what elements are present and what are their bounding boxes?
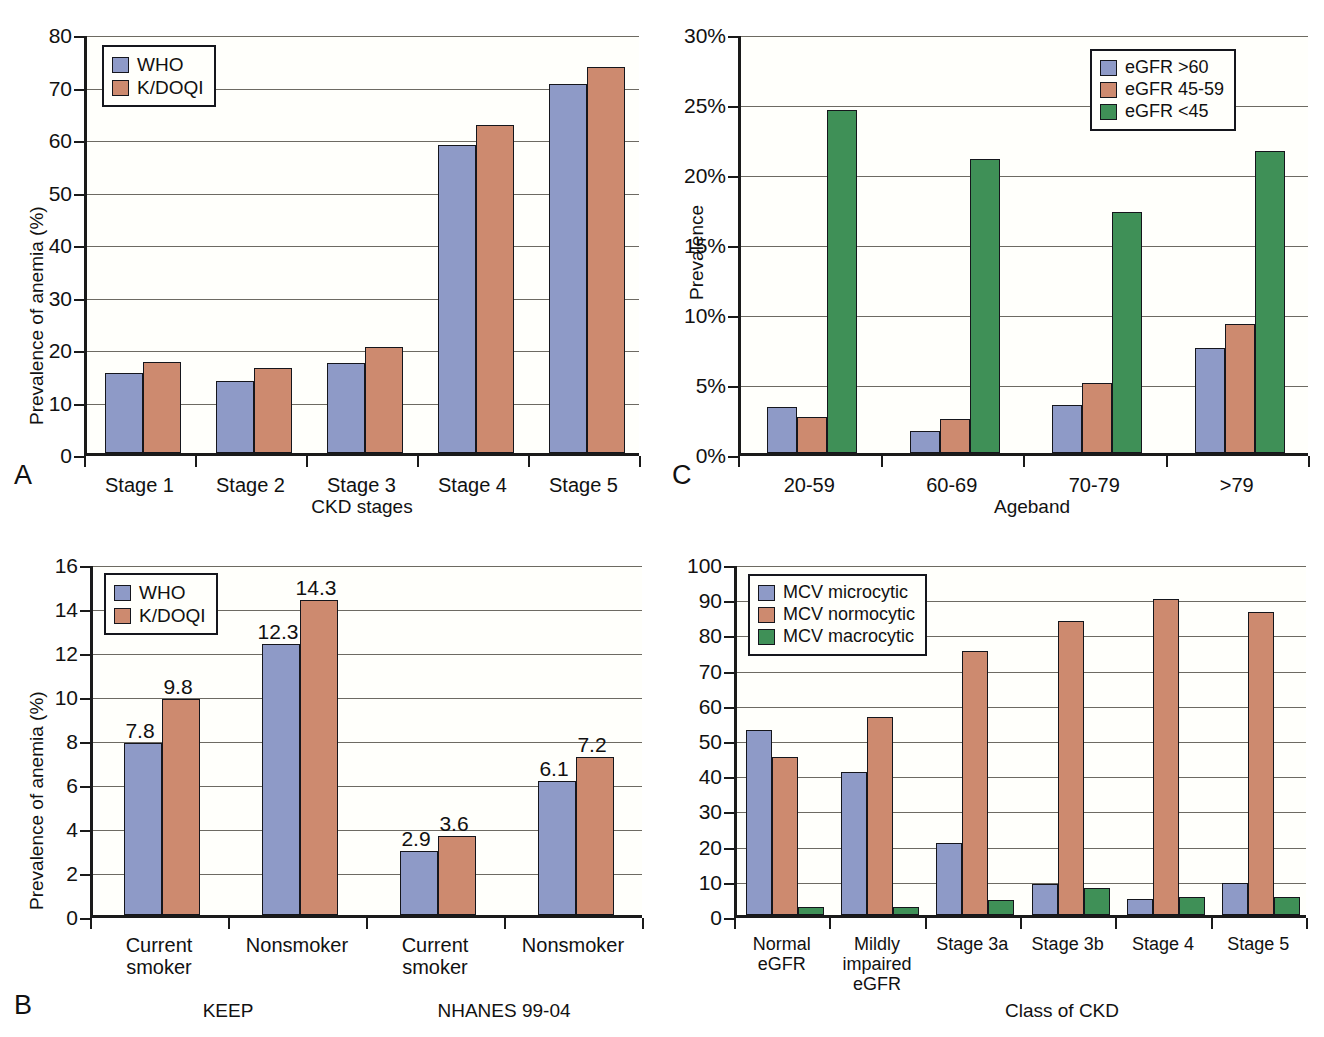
bar <box>162 699 200 915</box>
legend-item-egfr-45-59[interactable]: eGFR 45-59 <box>1100 79 1224 101</box>
y-tick-label: 10 <box>49 392 72 416</box>
gridline <box>737 707 1306 708</box>
gridline <box>737 883 1306 884</box>
legend-item-mcv-normocytic[interactable]: MCV normocytic <box>758 604 915 626</box>
y-tick-mark <box>74 456 84 458</box>
y-tick-mark <box>724 883 734 885</box>
y-tick-label: 40 <box>699 765 722 789</box>
bar-value-label: 9.8 <box>163 675 192 699</box>
bar <box>1225 324 1255 453</box>
x-tick-mark <box>642 918 644 929</box>
y-tick-label: 70 <box>49 77 72 101</box>
y-tick-mark <box>728 246 738 248</box>
y-tick-mark <box>74 36 84 38</box>
x-tick-mark <box>1023 456 1025 467</box>
y-tick-label: 20 <box>49 339 72 363</box>
bar <box>1112 212 1142 453</box>
bar <box>1084 888 1110 915</box>
legend-label: MCV normocytic <box>783 604 915 626</box>
y-tick-mark <box>724 636 734 638</box>
y-tick-mark <box>724 601 734 603</box>
gridline <box>741 176 1308 177</box>
y-tick-mark <box>724 742 734 744</box>
legend-item-mcv-macrocytic[interactable]: MCV macrocytic <box>758 626 915 648</box>
y-tick-label: 30 <box>699 800 722 824</box>
gridline <box>737 848 1306 849</box>
legend-b[interactable]: WHO K/DOQI <box>104 573 218 635</box>
legend-item-kdoqi[interactable]: K/DOQI <box>112 76 204 99</box>
legend-item-mcv-microcytic[interactable]: MCV microcytic <box>758 582 915 604</box>
bar <box>438 145 476 453</box>
bar <box>1032 884 1058 915</box>
bar <box>576 757 614 915</box>
figure-canvas: Prevalence of anemia (%) CKD stages WHO … <box>0 0 1324 1037</box>
group-label-nhanes: NHANES 99-04 <box>437 1000 570 1022</box>
y-tick-mark <box>74 89 84 91</box>
bar <box>438 836 476 915</box>
legend-item-egfr-gt60[interactable]: eGFR >60 <box>1100 57 1224 79</box>
plot-top-border <box>93 566 642 567</box>
y-tick-label: 12 <box>55 642 78 666</box>
legend-item-egfr-lt45[interactable]: eGFR <45 <box>1100 101 1224 123</box>
x-category-label: Nonsmoker <box>491 934 655 956</box>
x-category-label: Stage 5 <box>1198 934 1319 954</box>
x-tick-mark <box>84 456 86 467</box>
y-tick-label: 20% <box>684 164 726 188</box>
y-tick-mark <box>74 141 84 143</box>
y-tick-mark <box>728 316 738 318</box>
x-tick-mark <box>417 456 419 467</box>
bar <box>549 84 587 453</box>
y-tick-mark <box>74 246 84 248</box>
panel-c: Prevalence Ageband eGFR >60 eGFR 45-59 e… <box>662 0 1324 520</box>
legend-label: eGFR >60 <box>1125 57 1209 79</box>
legend-label: MCV microcytic <box>783 582 908 604</box>
bar-value-label: 12.3 <box>258 620 299 644</box>
legend-c[interactable]: eGFR >60 eGFR 45-59 eGFR <45 <box>1090 49 1236 131</box>
y-tick-mark <box>80 830 90 832</box>
y-tick-label: 10 <box>699 871 722 895</box>
y-tick-label: 0 <box>710 906 722 930</box>
y-tick-label: 10% <box>684 304 726 328</box>
bar-value-label: 7.8 <box>125 719 154 743</box>
bar <box>940 419 970 453</box>
bar <box>867 717 893 915</box>
y-tick-label: 70 <box>699 660 722 684</box>
bar <box>262 644 300 915</box>
legend-d[interactable]: MCV microcytic MCV normocytic MCV macroc… <box>748 574 927 656</box>
panel-letter-a: A <box>14 460 32 491</box>
y-tick-label: 60 <box>699 695 722 719</box>
legend-label: MCV macrocytic <box>783 626 914 648</box>
legend-a[interactable]: WHO K/DOQI <box>102 45 216 107</box>
y-tick-mark <box>728 36 738 38</box>
y-tick-mark <box>74 404 84 406</box>
bar <box>124 743 162 915</box>
x-tick-mark <box>1166 456 1168 467</box>
legend-swatch-blue-icon <box>112 57 129 73</box>
chart-a: Prevalence of anemia (%) CKD stages WHO … <box>0 0 662 520</box>
bar <box>1195 348 1225 453</box>
bar <box>105 373 143 453</box>
x-category-label: Stage 5 <box>515 474 652 496</box>
bar <box>798 907 824 915</box>
y-tick-label: 60 <box>49 129 72 153</box>
bar <box>772 757 798 915</box>
y-tick-mark <box>724 777 734 779</box>
bar-value-label: 3.6 <box>439 812 468 836</box>
y-tick-label: 80 <box>699 624 722 648</box>
y-tick-mark <box>724 918 734 920</box>
y-tick-mark <box>724 707 734 709</box>
y-tick-mark <box>728 386 738 388</box>
x-tick-mark <box>1020 918 1022 929</box>
bar <box>746 730 772 915</box>
y-tick-label: 25% <box>684 94 726 118</box>
y-tick-label: 0% <box>696 444 726 468</box>
y-tick-label: 16 <box>55 554 78 578</box>
y-tick-label: 30% <box>684 24 726 48</box>
x-tick-mark <box>925 918 927 929</box>
legend-item-kdoqi[interactable]: K/DOQI <box>114 604 206 627</box>
y-tick-label: 8 <box>66 730 78 754</box>
x-tick-mark <box>881 456 883 467</box>
legend-item-who[interactable]: WHO <box>112 53 204 76</box>
legend-item-who[interactable]: WHO <box>114 581 206 604</box>
legend-swatch-red-icon <box>1100 82 1117 98</box>
